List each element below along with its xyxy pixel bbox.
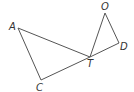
segment-OD xyxy=(105,13,119,43)
geometry-diagram: ACTOD xyxy=(0,0,134,92)
point-label-C: C xyxy=(36,82,43,92)
point-label-T: T xyxy=(87,58,94,69)
point-label-D: D xyxy=(120,41,128,52)
point-label-A: A xyxy=(8,21,16,32)
segment-CT xyxy=(41,57,90,80)
point-label-O: O xyxy=(101,1,109,12)
edges xyxy=(18,13,119,80)
